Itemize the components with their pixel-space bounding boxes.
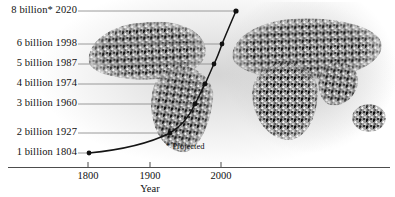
data-point-1974 bbox=[203, 82, 208, 87]
data-point-1804 bbox=[87, 151, 92, 156]
x-axis-ticks bbox=[88, 162, 221, 167]
data-point-1927 bbox=[168, 131, 173, 136]
data-point-1998 bbox=[220, 42, 225, 47]
y-label-4-billion: 4 billion 1974 bbox=[17, 77, 77, 88]
data-point-1987 bbox=[212, 62, 217, 67]
y-label-8-billion: 8 billion* 2020 bbox=[11, 4, 77, 15]
x-tick-label-1900: 1900 bbox=[120, 170, 180, 181]
data-point-2020 bbox=[233, 8, 238, 13]
x-tick-label-1800: 1800 bbox=[58, 170, 118, 181]
x-axis-title: Year bbox=[120, 183, 180, 194]
data-point-1960 bbox=[193, 102, 198, 107]
y-label-1-billion: 1 billion 1804 bbox=[17, 146, 77, 157]
population-curve bbox=[89, 11, 236, 153]
x-tick-label-2000: 2000 bbox=[191, 170, 251, 181]
population-growth-chart: 8 billion* 2020 6 billion 1998 5 billion… bbox=[0, 0, 395, 197]
y-label-6-billion: 6 billion 1998 bbox=[17, 37, 77, 48]
y-label-2-billion: 2 billion 1927 bbox=[17, 126, 77, 137]
y-label-3-billion: 3 billion 1960 bbox=[17, 97, 77, 108]
plot-area: 8 billion* 2020 6 billion 1998 5 billion… bbox=[0, 0, 395, 197]
projected-footnote: * Projected bbox=[166, 141, 204, 151]
gridlines bbox=[78, 11, 236, 153]
y-label-5-billion: 5 billion 1987 bbox=[17, 57, 77, 68]
